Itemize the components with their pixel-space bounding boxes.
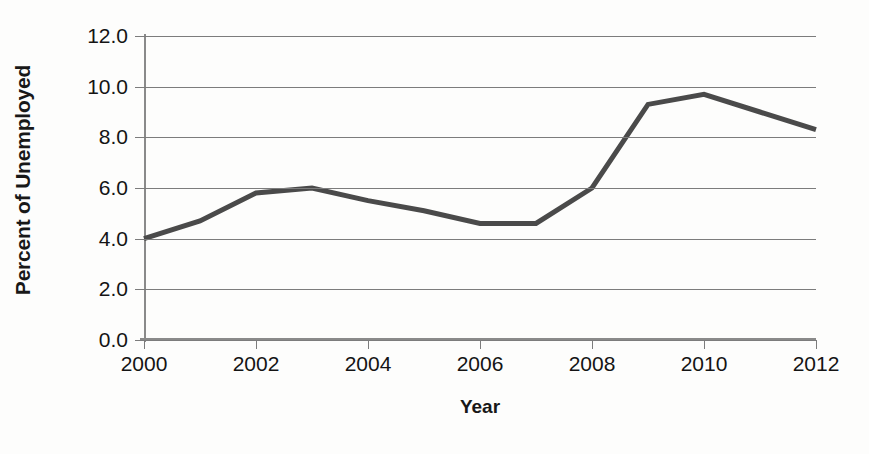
y-tick-mark (135, 340, 144, 341)
x-tick-label: 2008 (569, 352, 616, 376)
x-tick-mark (592, 340, 593, 349)
x-axis-tick-labels: 2000200220042006200820102012 (144, 352, 816, 384)
gridline (144, 239, 816, 240)
x-tick-label: 2004 (345, 352, 392, 376)
x-tick-mark (368, 340, 369, 349)
gridline (144, 36, 816, 37)
x-tick-mark (816, 340, 817, 349)
x-tick-mark (704, 340, 705, 349)
y-tick-label: 6.0 (99, 176, 128, 200)
y-tick-mark (135, 137, 144, 138)
x-tick-label: 2002 (233, 352, 280, 376)
chart-figure: Percent of Unemployed 0.02.04.06.08.010.… (0, 0, 869, 454)
gridline (144, 188, 816, 189)
x-tick-label: 2010 (681, 352, 728, 376)
y-tick-label: 0.0 (99, 328, 128, 352)
y-tick-label: 2.0 (99, 277, 128, 301)
y-tick-label: 12.0 (87, 24, 128, 48)
x-axis-title: Year (144, 396, 816, 418)
x-tick-mark (256, 340, 257, 349)
y-tick-mark (135, 36, 144, 37)
y-tick-label: 8.0 (99, 125, 128, 149)
y-tick-mark (135, 87, 144, 88)
y-axis-title-text: Percent of Unemployed (11, 65, 35, 295)
x-tick-label: 2006 (457, 352, 504, 376)
y-tick-label: 10.0 (87, 75, 128, 99)
gridline (144, 137, 816, 138)
x-tick-label: 2012 (793, 352, 840, 376)
gridline (144, 87, 816, 88)
y-axis-tick-labels: 0.02.04.06.08.010.012.0 (48, 0, 136, 454)
series-polyline (144, 94, 816, 238)
plot-area (144, 36, 816, 340)
y-tick-mark (135, 239, 144, 240)
x-tick-label: 2000 (121, 352, 168, 376)
x-axis-title-text: Year (460, 396, 500, 417)
gridline (144, 289, 816, 290)
y-tick-label: 4.0 (99, 227, 128, 251)
y-tick-mark (135, 289, 144, 290)
x-tick-mark (144, 340, 145, 349)
y-tick-mark (135, 188, 144, 189)
x-tick-mark (480, 340, 481, 349)
y-axis-title: Percent of Unemployed (0, 0, 46, 360)
